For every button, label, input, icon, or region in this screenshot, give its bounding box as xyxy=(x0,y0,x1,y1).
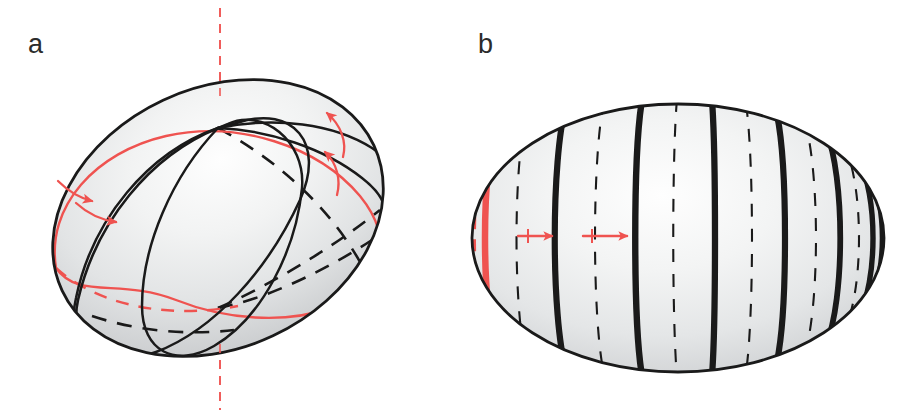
figure-root: a xyxy=(0,0,901,417)
panel-b-ellipsoid-body xyxy=(472,104,884,372)
meridian-front-3 xyxy=(712,100,715,376)
panel-b-group: b xyxy=(472,29,884,377)
panel-a-label: a xyxy=(28,29,44,59)
panel-a-group: a xyxy=(7,8,429,410)
ellipsoid-diagram-svg: a xyxy=(0,0,901,417)
panel-a-ellipsoid-body xyxy=(7,27,429,408)
panel-b-label: b xyxy=(478,29,493,59)
